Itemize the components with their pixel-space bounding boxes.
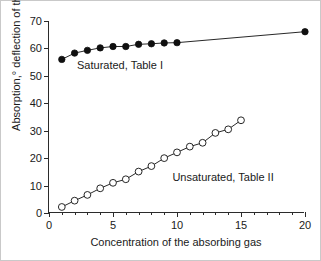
data-point	[97, 45, 103, 51]
data-point	[302, 29, 308, 35]
y-axis-title-wrapper: Absorption,° deflection of the sensor	[1, 1, 19, 233]
x-axis-tick	[305, 212, 306, 217]
y-axis-tick-label: 30	[30, 125, 42, 136]
data-point	[174, 149, 181, 156]
data-point	[110, 179, 117, 186]
x-axis-minor-tick	[75, 212, 76, 215]
x-axis-title: Concentration of the absorbing gas	[48, 237, 304, 248]
y-axis-tick-label: 0	[36, 208, 42, 219]
data-point	[174, 39, 180, 45]
data-series	[58, 117, 244, 210]
plot-area: Saturated, Table IUnsaturated, Table II …	[48, 21, 304, 213]
y-axis-tick-label: 10	[30, 180, 42, 191]
data-point	[110, 43, 116, 49]
y-axis-tick	[44, 103, 49, 104]
x-axis-minor-tick	[126, 212, 127, 215]
plot-inner: Saturated, Table IUnsaturated, Table II	[49, 21, 304, 212]
data-point	[135, 168, 142, 175]
y-axis-tick	[44, 186, 49, 187]
data-point	[225, 126, 232, 133]
y-axis-tick-label: 20	[30, 153, 42, 164]
data-point	[58, 204, 65, 211]
x-axis-minor-tick	[164, 212, 165, 215]
series-layer	[49, 21, 305, 213]
data-point	[186, 143, 193, 150]
y-axis-tick	[44, 21, 49, 22]
data-point	[135, 41, 141, 47]
data-point	[161, 155, 168, 162]
data-point	[59, 56, 65, 62]
y-axis-tick	[44, 76, 49, 77]
x-axis-minor-tick	[62, 212, 63, 215]
x-axis-minor-tick	[279, 212, 280, 215]
x-axis-minor-tick	[292, 212, 293, 215]
y-axis-tick	[44, 131, 49, 132]
chart-figure: Absorption,° deflection of the sensor Sa…	[0, 0, 321, 261]
x-axis-tick-label: 20	[299, 220, 311, 231]
data-point	[148, 41, 154, 47]
series-annotation-label: Saturated, Table I	[77, 59, 163, 70]
data-point	[148, 163, 155, 170]
y-axis-title: Absorption,° deflection of the sensor	[11, 0, 22, 143]
x-axis-minor-tick	[254, 212, 255, 215]
x-axis-tick-label: 10	[171, 220, 183, 231]
x-axis-minor-tick	[100, 212, 101, 215]
data-point	[84, 192, 91, 199]
x-axis-tick-label: 0	[46, 220, 52, 231]
data-point	[212, 130, 219, 137]
x-axis-minor-tick	[267, 212, 268, 215]
x-axis-minor-tick	[215, 212, 216, 215]
x-axis-minor-tick	[203, 212, 204, 215]
x-axis-tick	[241, 212, 242, 217]
data-point	[122, 176, 129, 183]
x-axis-tick	[113, 212, 114, 217]
y-axis-tick-label: 40	[30, 98, 42, 109]
y-axis-tick	[44, 48, 49, 49]
data-point	[123, 43, 129, 49]
y-axis-tick	[44, 158, 49, 159]
y-axis-tick-label: 70	[30, 16, 42, 27]
data-point	[84, 47, 90, 53]
x-axis-minor-tick	[139, 212, 140, 215]
data-point	[71, 197, 78, 204]
x-axis-minor-tick	[190, 212, 191, 215]
x-axis-tick-label: 5	[110, 220, 116, 231]
x-axis-minor-tick	[151, 212, 152, 215]
x-axis-tick	[49, 212, 50, 217]
data-point	[199, 139, 206, 146]
y-axis-tick-label: 60	[30, 43, 42, 54]
data-point	[238, 117, 245, 124]
x-axis-tick	[177, 212, 178, 217]
data-point	[161, 40, 167, 46]
y-axis-tick-label: 50	[30, 70, 42, 81]
data-point	[97, 185, 104, 192]
x-axis-minor-tick	[228, 212, 229, 215]
series-annotation-label: Unsaturated, Table II	[172, 171, 273, 182]
data-point	[71, 50, 77, 56]
x-axis-minor-tick	[87, 212, 88, 215]
x-axis-tick-label: 15	[235, 220, 247, 231]
